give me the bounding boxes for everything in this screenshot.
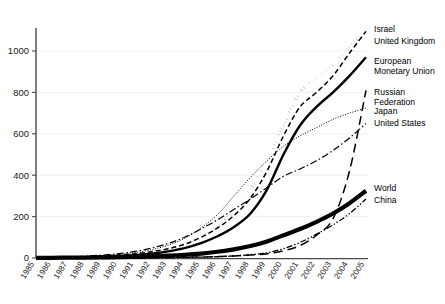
x-axis-ticks: 1985198619871988198919901991199219931994… bbox=[19, 260, 367, 281]
x-tick-label: 2001 bbox=[283, 260, 301, 281]
x-tick-label: 1995 bbox=[184, 260, 202, 281]
x-tick-label: 1999 bbox=[250, 260, 268, 281]
y-tick-label: 600 bbox=[13, 128, 29, 139]
x-tick-label: 1991 bbox=[118, 260, 136, 281]
series-lines bbox=[36, 30, 366, 258]
legend-label: World bbox=[374, 183, 397, 193]
series-line bbox=[36, 57, 366, 258]
legend-label: Israel bbox=[374, 24, 395, 34]
legend-label: China bbox=[374, 195, 397, 205]
x-tick-label: 2002 bbox=[299, 260, 317, 281]
chart-legend: IsraelUnited KingdomEuropeanMonetary Uni… bbox=[374, 24, 435, 205]
x-tick-label: 2000 bbox=[266, 260, 284, 281]
legend-label: Monetary Union bbox=[374, 66, 435, 76]
y-tick-label: 200 bbox=[13, 211, 29, 222]
legend-label: European bbox=[374, 56, 411, 66]
legend-label: Russian bbox=[374, 87, 405, 97]
x-tick-label: 1985 bbox=[19, 260, 37, 281]
legend-label: United Kingdom bbox=[374, 36, 435, 46]
x-tick-label: 1987 bbox=[52, 260, 70, 281]
y-tick-label: 1000 bbox=[8, 45, 29, 56]
x-tick-label: 1997 bbox=[217, 260, 235, 281]
x-tick-label: 1993 bbox=[151, 260, 169, 281]
x-tick-label: 2003 bbox=[316, 260, 334, 281]
x-tick-label: 2004 bbox=[332, 260, 350, 281]
series-line bbox=[36, 90, 366, 258]
x-tick-label: 1986 bbox=[35, 260, 53, 281]
series-line bbox=[36, 123, 366, 257]
series-line bbox=[36, 191, 366, 258]
gridlines bbox=[36, 51, 368, 217]
y-axis-ticks: 02004006008001000 bbox=[8, 45, 36, 263]
line-chart: 02004006008001000 1985198619871988198919… bbox=[0, 0, 445, 304]
chart-canvas: 02004006008001000 1985198619871988198919… bbox=[0, 0, 445, 304]
x-tick-label: 1990 bbox=[101, 260, 119, 281]
x-tick-label: 1988 bbox=[68, 260, 86, 281]
chart-axes bbox=[36, 28, 368, 259]
legend-label: Japan bbox=[374, 106, 398, 116]
y-tick-label: 400 bbox=[13, 170, 29, 181]
x-tick-label: 1992 bbox=[134, 260, 152, 281]
x-tick-label: 1998 bbox=[233, 260, 251, 281]
x-tick-label: 2005 bbox=[349, 260, 367, 281]
x-tick-label: 1994 bbox=[167, 260, 185, 281]
y-tick-label: 800 bbox=[13, 87, 29, 98]
legend-label: United States bbox=[374, 118, 426, 128]
x-tick-label: 1996 bbox=[200, 260, 218, 281]
series-line bbox=[36, 199, 366, 258]
x-tick-label: 1989 bbox=[85, 260, 103, 281]
